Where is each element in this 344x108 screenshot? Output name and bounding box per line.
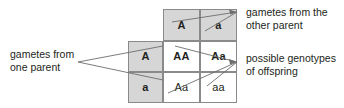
row-header-cell-a: a bbox=[128, 72, 163, 103]
row-header-label-A: A bbox=[141, 51, 149, 62]
column-header-label-A: A bbox=[177, 20, 185, 31]
offspring-genotype-aa: aa bbox=[212, 82, 225, 93]
offspring-genotype-AA: AA bbox=[173, 51, 189, 62]
column-header-cell-A: A bbox=[163, 9, 200, 41]
column-header-label-a: a bbox=[215, 20, 221, 31]
offspring-genotype-Aa-top: Aa bbox=[211, 51, 225, 62]
column-header-cell-a: a bbox=[200, 9, 237, 41]
offspring-genotype-Aa-bottom: Aa bbox=[175, 82, 189, 93]
offspring-cell-aa-homozygous-dominant: AA bbox=[163, 41, 200, 72]
annotation-possible-genotypes: possible genotypes of offspring bbox=[246, 52, 342, 78]
row-header-cell-A: A bbox=[128, 41, 163, 72]
row-header-label-a: a bbox=[142, 82, 148, 93]
annotation-gametes-one-parent: gametes from one parent bbox=[10, 48, 100, 74]
offspring-cell-heterozygous-bottom: Aa bbox=[163, 72, 200, 103]
offspring-cell-heterozygous-top: Aa bbox=[200, 41, 237, 72]
offspring-cell-homozygous-recessive: aa bbox=[200, 72, 237, 103]
annotation-gametes-other-parent: gametes from the other parent bbox=[246, 6, 342, 32]
punnett-square-diagram: A a A a AA Aa Aa aa bbox=[0, 0, 344, 108]
